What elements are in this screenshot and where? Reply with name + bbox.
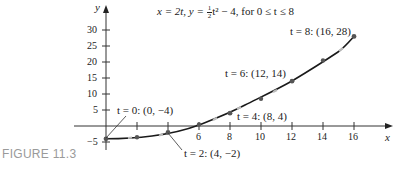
y-tick-10: 10 <box>87 88 97 99</box>
x-axis-label: x <box>385 131 390 143</box>
y-tick-15: 15 <box>87 72 97 83</box>
equation-xpart: x = 2t, y = <box>157 5 207 17</box>
x-tick-6: 6 <box>196 131 201 142</box>
point-t0 <box>104 136 109 141</box>
direction-markers <box>128 48 343 138</box>
x-tick-14: 14 <box>317 131 327 142</box>
annotation-t4: t = 4: (8, 4) <box>237 110 287 122</box>
point-t6 <box>290 79 295 84</box>
annotation-t8: t = 8: (16, 28) <box>290 25 351 37</box>
y-axis-label: y <box>95 1 100 13</box>
y-tick-5: 5 <box>93 104 98 115</box>
x-tick-12: 12 <box>286 131 296 142</box>
point-t8 <box>352 34 357 39</box>
point-t5 <box>259 97 263 101</box>
y-axis-arrow-icon <box>103 5 109 13</box>
x-tick-16: 16 <box>348 131 358 142</box>
equation-rest: t² − 4, for 0 ≤ t ≤ 8 <box>212 5 294 17</box>
point-t1 <box>135 135 139 139</box>
point-t3 <box>197 122 201 126</box>
point-t7 <box>321 58 325 62</box>
figure-caption: FIGURE 11.3 <box>2 147 76 161</box>
point-t2 <box>166 130 171 135</box>
y-tick-30: 30 <box>87 24 97 35</box>
leader-t0 <box>106 116 126 138</box>
annotation-t6: t = 6: (12, 14) <box>225 67 286 79</box>
annotation-t2: t = 2: (4, −2) <box>184 147 240 159</box>
annotation-t0: t = 0: (0, −4) <box>117 104 173 116</box>
x-axis-arrow-icon <box>385 123 393 129</box>
x-tick-8: 8 <box>227 131 232 142</box>
leader-t2 <box>168 133 182 150</box>
point-t4 <box>228 111 233 116</box>
y-tick-20: 20 <box>87 56 97 67</box>
y-tick-25: 25 <box>87 40 97 51</box>
y-tick-neg5: −5 <box>87 136 98 147</box>
x-tick-10: 10 <box>255 131 265 142</box>
equation-title: x = 2t, y = 12t² − 4, for 0 ≤ t ≤ 8 <box>157 5 294 20</box>
